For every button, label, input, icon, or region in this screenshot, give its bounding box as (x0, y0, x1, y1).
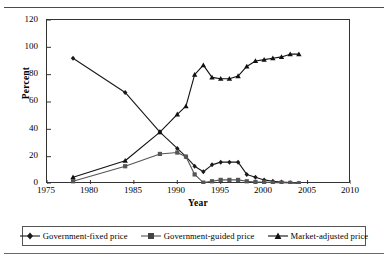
diamond-marker-icon (20, 231, 40, 241)
y-axis-label: Percent (21, 53, 31, 113)
x-axis-label: Year (46, 198, 350, 208)
series-line-government-fixed-price (73, 58, 299, 183)
data-point-marker (244, 64, 249, 69)
x-tick-label: 1990 (156, 186, 196, 195)
legend-item-government-fixed-price[interactable]: Government-fixed price (20, 231, 128, 241)
x-tick-label: 1975 (26, 186, 66, 195)
data-point-marker (253, 180, 257, 184)
figure-container: 120 100 80 60 40 20 0 Percent 1975 1980 … (0, 0, 388, 261)
data-point-marker (158, 152, 162, 156)
data-point-marker (183, 103, 188, 108)
top-rule (4, 7, 384, 8)
x-tick-label: 2005 (287, 186, 327, 195)
data-point-marker (262, 180, 266, 184)
data-point-marker (201, 181, 205, 184)
data-point-marker (236, 178, 240, 182)
clipped-caption (0, 0, 388, 6)
data-point-marker (271, 181, 275, 184)
x-tick-label: 2010 (330, 186, 370, 195)
y-tick-label: 40 (8, 124, 38, 133)
data-point-marker (184, 155, 188, 159)
data-point-marker (297, 181, 301, 184)
legend-label: Government-fixed price (43, 231, 128, 241)
legend-item-government-guided-price[interactable]: Government-guided price (141, 231, 255, 241)
data-point-marker (193, 172, 197, 176)
triangle-marker-icon (268, 231, 288, 241)
data-point-marker (219, 160, 223, 165)
data-point-marker (71, 56, 75, 61)
chart-legend: Government-fixed price Government-guided… (22, 226, 366, 246)
y-tick-label: 20 (8, 151, 38, 160)
data-point-marker (123, 164, 127, 168)
data-point-marker (288, 181, 292, 184)
x-tick-label: 1980 (69, 186, 109, 195)
data-point-marker (279, 181, 283, 184)
y-tick-label: 100 (8, 42, 38, 51)
square-marker-icon (141, 231, 161, 241)
data-point-marker (201, 62, 206, 67)
data-point-marker (227, 160, 231, 165)
data-point-marker (227, 178, 231, 182)
data-point-marker (210, 179, 214, 183)
data-point-marker (253, 175, 257, 180)
data-point-marker (245, 179, 249, 183)
chart-canvas (47, 20, 351, 184)
data-point-marker (175, 150, 179, 154)
data-point-marker (219, 178, 223, 182)
legend-item-market-adjusted-price[interactable]: Market-adjusted price (268, 231, 369, 241)
data-point-marker (71, 179, 75, 183)
x-tick-label: 1985 (113, 186, 153, 195)
x-tick-label: 1995 (200, 186, 240, 195)
bottom-rule (4, 253, 384, 254)
legend-label: Market-adjusted price (291, 231, 369, 241)
x-tick-label: 2000 (243, 186, 283, 195)
y-tick-label: 120 (8, 15, 38, 24)
legend-label: Government-guided price (164, 231, 255, 241)
plot-area (46, 19, 350, 183)
